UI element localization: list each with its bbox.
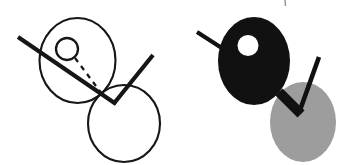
- corner-tick-mark: [285, 0, 286, 6]
- figure-canvas: [0, 0, 346, 165]
- right-black-blob: [218, 17, 290, 105]
- figure-illustration: [0, 0, 346, 165]
- right-white-hole: [238, 35, 259, 56]
